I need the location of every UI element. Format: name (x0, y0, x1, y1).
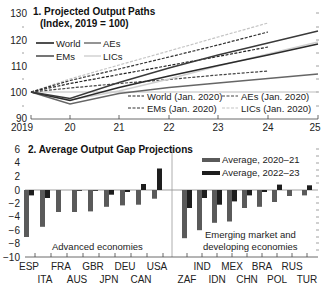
bar-can-2022-23 (141, 184, 146, 190)
bar-idn-2022-23 (217, 190, 222, 205)
bar-zaf-2022-23 (187, 190, 192, 208)
legend-2020-21: Average, 2020–21 (222, 154, 299, 165)
chart1-legend-bottom: World (Jan. 2020) AEs (Jan. 2020) EMs (J… (128, 91, 311, 114)
xlabel-mex: MEX (221, 261, 243, 272)
bars-advanced-economies (24, 169, 162, 238)
group-label-em-line2: developing economies (203, 241, 298, 252)
x-tick-25: 25 (309, 122, 321, 133)
legend-swatch-2020-21 (202, 158, 220, 162)
xlabel-aus: AUS (67, 274, 88, 285)
legend-swatch-2022-23 (202, 171, 220, 175)
xlabel-pol: POL (267, 274, 287, 285)
x-tick-22: 22 (163, 122, 175, 133)
figure: 130 120 110 100 90 (0, 0, 326, 294)
bar-idn-2020-21 (212, 190, 217, 223)
bar-can-2020-21 (136, 190, 141, 205)
bar-deu-2022-23 (125, 190, 130, 192)
bar-deu-2020-21 (120, 190, 125, 205)
x2-labels-bottom: ITA AUS JPN CAN ZAF IDN CHN POL TUR (38, 274, 318, 285)
bar-esp-2020-21 (24, 190, 29, 237)
legend-aes-jan: AEs (Jan. 2020) (241, 91, 309, 102)
xlabel-tur: TUR (297, 274, 318, 285)
legend-ems: EMs (56, 51, 75, 62)
xlabel-esp: ESP (19, 261, 39, 272)
y2-tick-minus6: −6 (9, 225, 21, 236)
bar-gbr-2022-23 (93, 190, 98, 191)
bar-chn-2020-21 (242, 190, 247, 208)
bar-usa-2022-23 (157, 169, 162, 191)
x-tick-23: 23 (212, 122, 224, 133)
y2-tick-2: 2 (14, 171, 20, 182)
bar-ind-2020-21 (197, 190, 202, 230)
xlabel-can: CAN (130, 274, 151, 285)
bar-esp-2022-23 (29, 190, 34, 195)
bar-aus-2022-23 (77, 190, 82, 191)
y-tick-130: 130 (10, 8, 27, 19)
bar-tur-2020-21 (302, 190, 307, 195)
legend-2022-23: Average, 2022–23 (222, 167, 299, 178)
bar-zaf-2020-21 (182, 190, 187, 238)
x-tick-20: 20 (64, 122, 76, 133)
xlabel-deu: DEU (114, 261, 135, 272)
x-ticks (31, 115, 318, 119)
bar-rus-2020-21 (287, 190, 292, 196)
chart1-subtitle: (Index, 2019 = 100) (40, 18, 129, 29)
bar-bra-2022-23 (262, 190, 267, 192)
xlabel-rus: RUS (281, 261, 302, 272)
chart-projected-output-paths: 130 120 110 100 90 (10, 6, 321, 133)
y2-tick-4: 4 (14, 157, 20, 168)
xlabel-bra: BRA (252, 261, 273, 272)
chart2-title: 2. Average Output Gap Projections (28, 144, 193, 155)
xlabel-usa: USA (147, 261, 168, 272)
y2-tick-minus4: −4 (9, 211, 21, 222)
bar-mex-2022-23 (232, 190, 237, 201)
group-label-em-line1: Emerging market and (205, 229, 296, 240)
x-tick-24: 24 (262, 122, 274, 133)
bar-jpn-2022-23 (109, 190, 114, 195)
y-tick-120: 120 (10, 35, 27, 46)
y2-tick-0: 0 (14, 185, 20, 196)
bar-pol-2022-23 (277, 185, 282, 190)
y2-tick-minus8: −8 (9, 238, 21, 249)
bar-aus-2020-21 (72, 190, 77, 212)
y2-tick-6: 6 (14, 144, 20, 155)
legend-world-jan: World (Jan. 2020) (147, 91, 222, 102)
chart1-legend-top: World AEs EMs LICs (36, 38, 123, 62)
y2-right-ticks (316, 149, 319, 250)
bar-tur-2022-23 (307, 185, 312, 190)
bar-gbr-2020-21 (88, 190, 93, 211)
bar-bra-2020-21 (257, 190, 262, 207)
bar-ind-2022-23 (202, 190, 207, 198)
bar-ita-2022-23 (45, 190, 50, 198)
y-tick-110: 110 (11, 61, 27, 72)
bar-pol-2020-21 (272, 190, 277, 202)
chart1-title: 1. Projected Output Paths (33, 6, 156, 17)
bar-chn-2022-23 (247, 190, 252, 195)
x-tick-21: 21 (113, 122, 125, 133)
xlabel-jpn: JPN (100, 274, 119, 285)
x-tick-2019: 2019 (11, 122, 34, 133)
y2-tick-minus2: −2 (9, 198, 21, 209)
chart-average-output-gap: 6 4 2 0 −2 −4 −6 −8 −10 (3, 144, 319, 285)
bar-jpn-2020-21 (104, 190, 109, 207)
y2-tick-minus10: −10 (3, 252, 20, 263)
legend-aes: AEs (103, 38, 121, 49)
xlabel-ind: IND (193, 261, 210, 272)
xlabel-zaf: ZAF (178, 274, 197, 285)
xlabel-chn: CHN (236, 274, 258, 285)
xlabel-idn: IDN (208, 274, 225, 285)
group-label-advanced: Advanced economies (52, 241, 143, 252)
y-tick-100: 100 (10, 87, 27, 98)
bar-mex-2020-21 (227, 190, 232, 222)
bar-ita-2020-21 (40, 190, 45, 227)
legend-lics: LICs (103, 51, 123, 62)
legend-lics-jan: LICs (Jan. 2020) (241, 103, 311, 114)
bar-fra-2020-21 (56, 190, 61, 212)
bar-usa-2020-21 (152, 190, 157, 199)
legend-world: World (56, 38, 81, 49)
xlabel-gbr: GBR (82, 261, 104, 272)
x2-ticks (35, 253, 307, 257)
chart2-legend: Average, 2020–21 Average, 2022–23 (202, 154, 299, 178)
legend-ems-jan: EMs (Jan. 2020) (147, 103, 217, 114)
xlabel-fra: FRA (51, 261, 71, 272)
